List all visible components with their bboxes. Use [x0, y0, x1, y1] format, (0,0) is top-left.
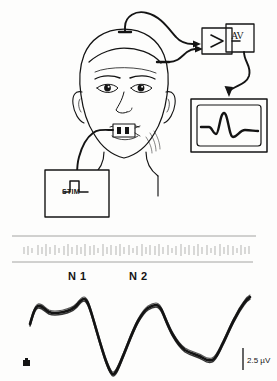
evoked-potential-figure: AV STIM — [0, 0, 277, 381]
band-rules — [12, 236, 256, 262]
eye-left — [97, 84, 118, 92]
averager-label: AV — [231, 30, 243, 41]
ear-right — [164, 92, 175, 123]
recording-setup-panel: AV STIM — [0, 0, 277, 220]
ear-left — [73, 92, 84, 123]
trace-onset-marker — [23, 358, 30, 366]
reference-electrode-lead — [169, 49, 195, 62]
scope-input-arrow — [225, 86, 234, 97]
stimulus-artifact-tick-band — [24, 244, 249, 256]
eyebrows — [95, 76, 155, 79]
nose — [116, 92, 132, 113]
eye-right — [131, 84, 152, 92]
vertex-electrode-lead — [125, 12, 193, 44]
trace-svg — [0, 220, 277, 381]
evoked-potential-trace-panel: N 1 N 2 2.5 µV — [0, 220, 277, 381]
evoked-potential-waveform — [30, 295, 250, 376]
peak-label-n2: N 2 — [129, 270, 148, 282]
amplifier-box — [202, 28, 232, 54]
peak-label-n1: N 1 — [68, 270, 87, 282]
scale-bar-label: 2.5 µV — [247, 356, 270, 365]
stimulator-label: STIM — [62, 188, 80, 195]
averager-to-scope-cable — [228, 52, 250, 92]
